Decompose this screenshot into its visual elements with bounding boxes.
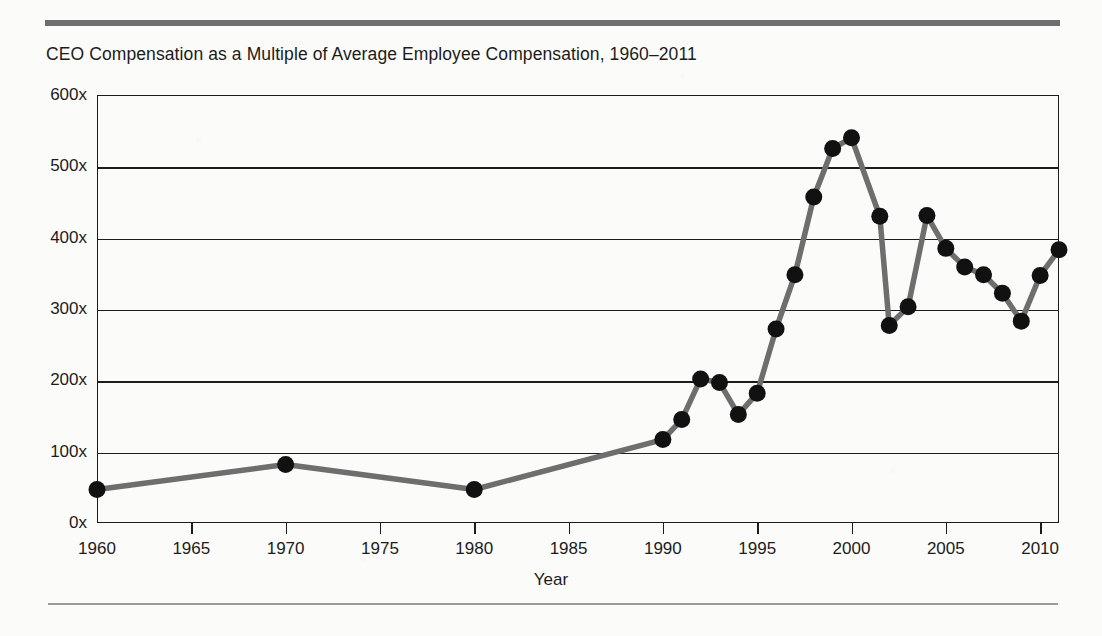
x-tick-1975 <box>380 523 382 534</box>
x-tick-label-1985: 1985 <box>550 539 588 559</box>
x-tick-label-2000: 2000 <box>833 539 871 559</box>
x-tick-1965 <box>191 523 193 534</box>
top-rule <box>45 20 1060 26</box>
y-tick-label-600x: 600x <box>50 85 87 105</box>
x-tick-label-1960: 1960 <box>78 539 116 559</box>
x-tick-1985 <box>569 523 571 534</box>
x-tick-label-2010: 2010 <box>1021 539 1059 559</box>
x-tick-label-1965: 1965 <box>172 539 210 559</box>
x-tick-label-1995: 1995 <box>738 539 776 559</box>
x-tick-2000 <box>852 523 854 534</box>
x-tick-label-1990: 1990 <box>644 539 682 559</box>
x-tick-1970 <box>286 523 288 534</box>
x-tick-label-2005: 2005 <box>927 539 965 559</box>
x-tick-2010 <box>1040 523 1042 534</box>
gridline-y-200 <box>98 381 1058 382</box>
gridline-y-300 <box>98 310 1058 311</box>
y-tick-label-0x: 0x <box>69 513 87 533</box>
y-tick-label-400x: 400x <box>50 228 87 248</box>
x-tick-label-1975: 1975 <box>361 539 399 559</box>
chart-title: CEO Compensation as a Multiple of Averag… <box>46 44 697 65</box>
x-axis-title: Year <box>0 570 1102 590</box>
gridline-y-500 <box>98 167 1058 168</box>
bottom-rule <box>48 603 1058 605</box>
x-tick-1980 <box>474 523 476 534</box>
y-tick-label-500x: 500x <box>50 156 87 176</box>
x-tick-2005 <box>946 523 948 534</box>
x-tick-1995 <box>757 523 759 534</box>
x-tick-1990 <box>663 523 665 534</box>
gridline-y-100 <box>98 453 1058 454</box>
x-tick-label-1980: 1980 <box>455 539 493 559</box>
y-tick-label-100x: 100x <box>50 442 87 462</box>
gridline-y-400 <box>98 239 1058 240</box>
plot-area <box>97 95 1059 523</box>
x-tick-label-1970: 1970 <box>267 539 305 559</box>
figure-container: CEO Compensation as a Multiple of Averag… <box>0 0 1102 636</box>
y-tick-label-200x: 200x <box>50 370 87 390</box>
y-tick-label-300x: 300x <box>50 299 87 319</box>
